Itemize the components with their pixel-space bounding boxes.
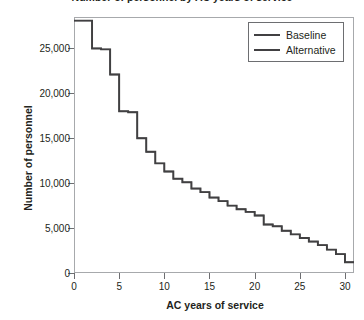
legend-line-alternative — [254, 49, 280, 51]
y-tick-label: 15,000 — [39, 133, 70, 144]
x-tick-mark — [255, 273, 256, 279]
x-tick-label: 15 — [204, 281, 215, 292]
x-tick-label: 5 — [116, 281, 122, 292]
chart-figure: Number of personnel by AC years of servi… — [0, 0, 364, 320]
legend-label-baseline: Baseline — [286, 29, 326, 41]
legend-item-alternative: Alternative — [254, 42, 336, 57]
y-tick-label: 20,000 — [39, 88, 70, 99]
chart-legend: Baseline Alternative — [248, 22, 344, 62]
y-tick-label: 10,000 — [39, 178, 70, 189]
y-axis-label: Number of personnel — [22, 68, 34, 248]
x-tick-mark — [74, 273, 75, 279]
chart-title: Number of personnel by AC years of servi… — [0, 0, 364, 3]
legend-item-baseline: Baseline — [254, 27, 336, 42]
x-tick-mark — [209, 273, 210, 279]
x-tick-label: 10 — [159, 281, 170, 292]
x-tick-mark — [345, 273, 346, 279]
x-tick-label: 30 — [339, 281, 350, 292]
legend-line-baseline — [254, 34, 280, 36]
x-tick-label: 20 — [249, 281, 260, 292]
x-tick-mark — [119, 273, 120, 279]
legend-label-alternative: Alternative — [286, 44, 336, 56]
y-tick-label: 0 — [64, 268, 70, 279]
x-axis-label: AC years of service — [75, 299, 355, 311]
x-tick-mark — [300, 273, 301, 279]
y-tick-label: 5,000 — [45, 223, 70, 234]
x-tick-label: 25 — [294, 281, 305, 292]
x-tick-mark — [164, 273, 165, 279]
x-tick-label: 0 — [71, 281, 77, 292]
y-tick-label: 25,000 — [39, 43, 70, 54]
